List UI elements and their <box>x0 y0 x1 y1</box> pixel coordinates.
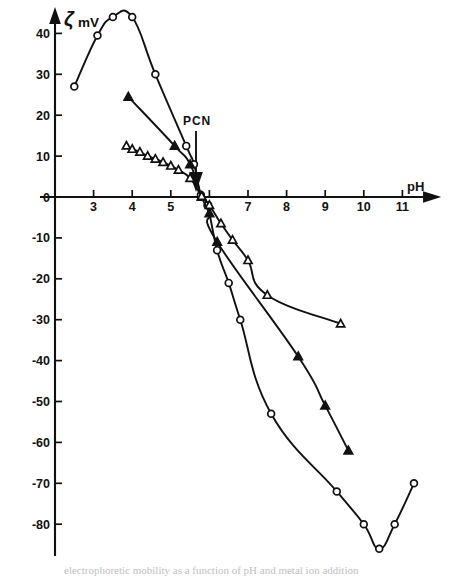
x-tick-label: 7 <box>245 200 252 214</box>
y-tick-label: 0 <box>43 191 50 205</box>
data-point-open-circle <box>71 83 78 90</box>
data-point-open-circle <box>391 521 398 528</box>
data-point-open-circle <box>214 247 221 254</box>
y-axis-ticks: 403020100-10-20-30-40-50-60-70-80 <box>32 27 62 532</box>
data-point-open-triangle <box>174 166 182 173</box>
data-point-open-circle <box>268 410 275 417</box>
data-point-open-circle <box>129 14 136 21</box>
series-filled-triangles <box>124 92 353 454</box>
data-point-filled-triangle <box>344 446 353 454</box>
y-tick-label: 20 <box>36 109 50 123</box>
x-axis-ticks: 34567891011 <box>90 190 409 214</box>
y-tick-label: -80 <box>32 518 50 532</box>
x-tick-label: 9 <box>322 200 329 214</box>
data-point-open-circle <box>376 545 383 552</box>
y-tick-label: 10 <box>36 150 50 164</box>
data-point-open-triangle <box>136 148 144 155</box>
y-tick-label: -20 <box>32 272 50 286</box>
data-point-filled-triangle <box>321 401 330 409</box>
data-point-open-triangle <box>151 155 159 162</box>
x-axis-arrowhead <box>424 193 438 202</box>
y-tick-label: -30 <box>32 313 50 327</box>
zeta-potential-figure: ζ mV pH 34567891011 403020100-10-20-30-4… <box>0 0 452 576</box>
data-point-open-triangle <box>337 319 345 326</box>
y-tick-label: 40 <box>36 27 50 41</box>
y-tick-label: 30 <box>36 68 50 82</box>
y-axis-arrowhead <box>51 10 60 23</box>
pcn-label: PCN <box>183 114 211 128</box>
x-tick-label: 11 <box>396 200 409 214</box>
data-point-open-circle <box>94 32 101 39</box>
data-point-open-triangle <box>159 158 167 165</box>
data-point-open-circle <box>110 14 117 21</box>
data-point-open-circle <box>225 279 232 286</box>
data-point-open-circle <box>152 71 159 78</box>
data-point-open-circle <box>333 488 340 495</box>
x-tick-label: 4 <box>129 200 136 214</box>
caption-strip: electrophoretic mobility as a function o… <box>0 562 452 576</box>
chart-canvas: ζ mV pH 34567891011 403020100-10-20-30-4… <box>0 0 452 576</box>
x-tick-label: 3 <box>90 200 97 214</box>
x-axis-title: pH <box>407 179 424 194</box>
y-tick-label: -70 <box>32 477 50 491</box>
data-point-open-circle <box>183 142 190 149</box>
data-point-filled-triangle <box>124 92 133 100</box>
series-line-filled-triangles <box>128 97 348 451</box>
x-tick-label: 5 <box>167 200 174 214</box>
data-point-open-triangle <box>122 142 130 149</box>
data-series-layer <box>71 10 417 552</box>
data-point-open-circle <box>411 480 418 487</box>
data-point-open-triangle <box>167 162 175 169</box>
data-point-open-circle <box>360 521 367 528</box>
axes-group <box>40 10 438 556</box>
data-point-open-triangle <box>144 152 152 159</box>
y-axis-title-unit: mV <box>78 15 99 30</box>
y-tick-label: -10 <box>32 231 50 245</box>
x-tick-label: 10 <box>357 200 371 214</box>
y-tick-label: -40 <box>32 354 50 368</box>
x-tick-label: 8 <box>283 200 290 214</box>
y-tick-label: -50 <box>32 395 50 409</box>
caption-fragment: electrophoretic mobility as a function o… <box>64 564 358 576</box>
data-point-open-circle <box>237 316 244 323</box>
y-tick-label: -60 <box>32 436 50 450</box>
y-axis-title-symbol: ζ <box>64 8 75 30</box>
